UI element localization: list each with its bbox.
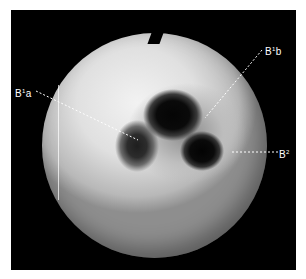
label-b1b: B1b bbox=[265, 44, 282, 57]
label-b2: B2 bbox=[279, 147, 290, 160]
leader-lines bbox=[0, 0, 306, 279]
label-b1a: B1a bbox=[15, 86, 32, 99]
